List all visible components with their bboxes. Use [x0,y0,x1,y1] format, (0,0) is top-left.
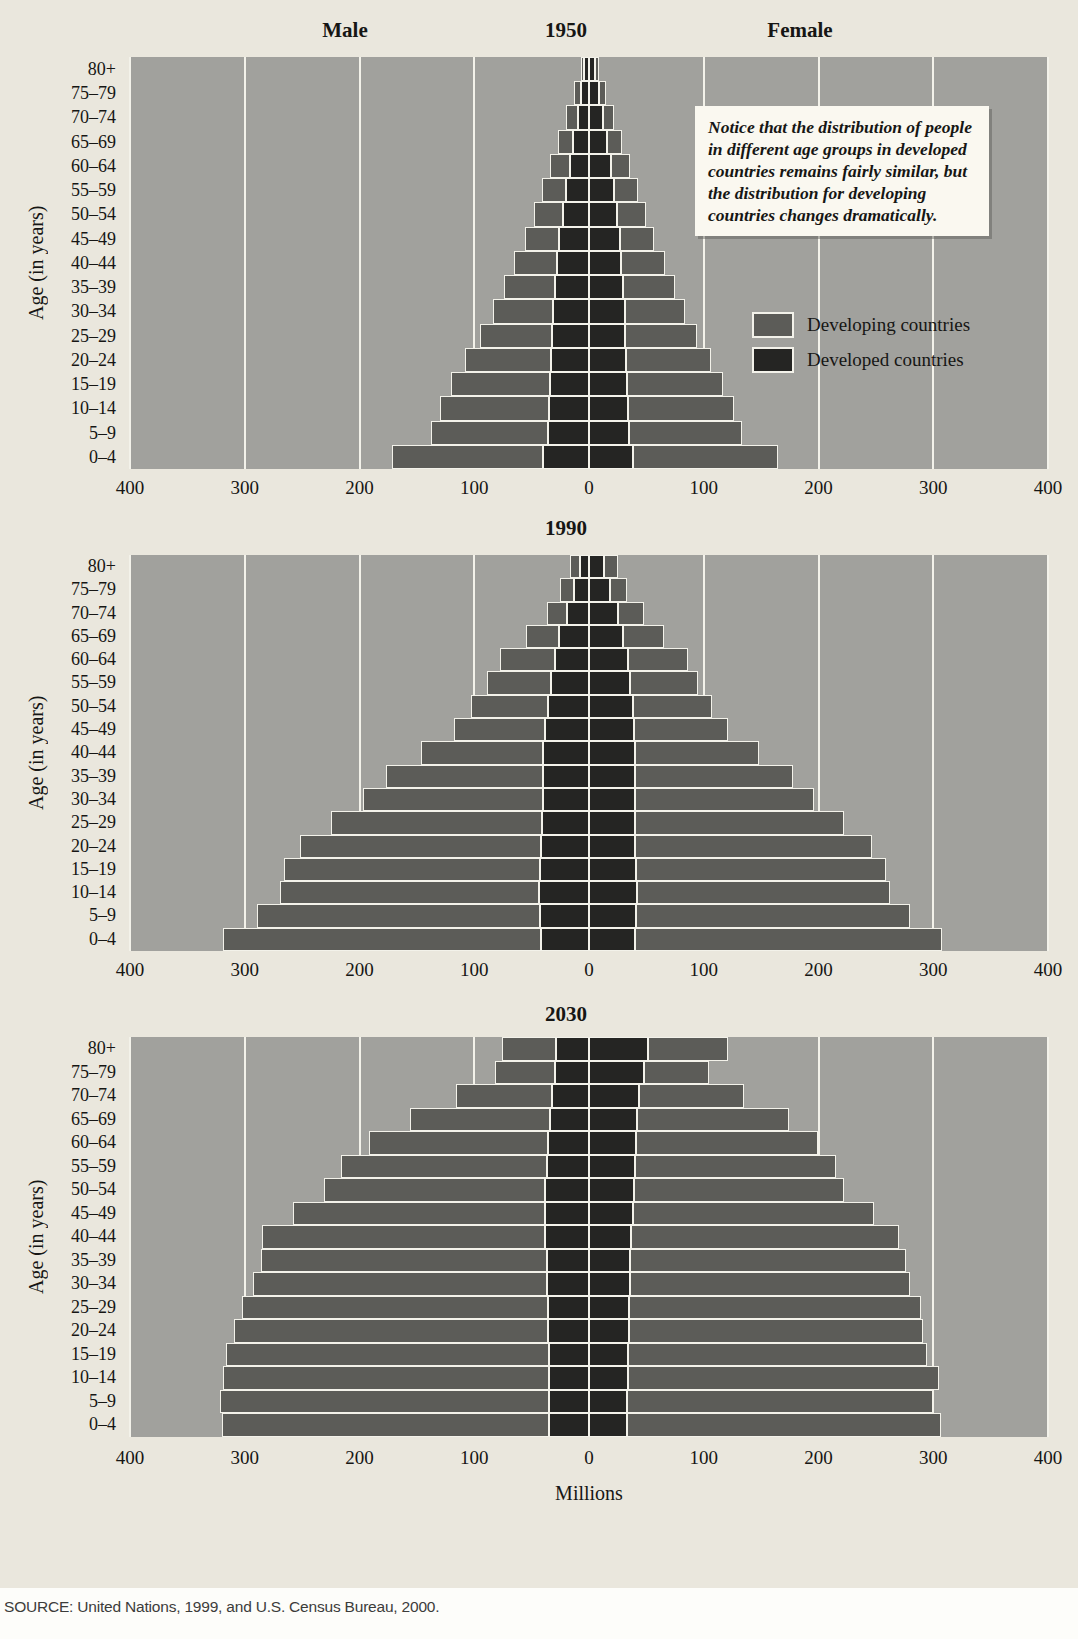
x-tick-label: 300 [919,959,948,981]
bar-female-developed [589,227,620,251]
female-half [589,602,1048,625]
bar-female-developing [628,396,734,420]
bar-female-developed [589,299,625,323]
bar-female-developing [644,1061,709,1085]
annotation-box: Notice that the distribution of people i… [695,106,989,236]
age-label: 0–4 [0,445,122,469]
bar-male-developed [539,881,589,904]
age-label: 60–64 [0,154,122,178]
bar-female-developing [603,105,614,129]
x-tick-label: 400 [1034,1447,1063,1469]
male-half [130,835,589,858]
bar-male-developed [540,904,589,927]
bar-female-developing [634,1178,844,1202]
female-half [589,788,1048,811]
bar-male-developing [456,1084,552,1108]
bar-female-developed [589,835,635,858]
bar-female-developing [607,130,622,154]
male-half [130,1061,589,1085]
age-label: 70–74 [0,602,122,625]
bar-male-developing [493,299,554,323]
age-label: 30–34 [0,299,122,323]
age-label: 45–49 [0,718,122,741]
age-label: 75–79 [0,1061,122,1085]
bar-male-developing [440,396,549,420]
bar-male-developed [545,1202,589,1226]
bar-male-developing [514,251,556,275]
age-label: 15–19 [0,372,122,396]
bar-female-developing [625,299,686,323]
age-label: 60–64 [0,1131,122,1155]
x-axis-ticks: 4003002001000100200300400 [130,477,1048,503]
bar-male-developing [471,695,548,718]
female-half [589,57,1048,81]
pyramid-panel-1990: 1990 Age (in years) 80+75–7970–7465–6960… [0,510,1078,996]
bar-female-developing [628,1366,939,1390]
bar-male-developing [284,858,540,881]
pyramid-plot-2030 [130,1037,1048,1437]
age-label: 50–54 [0,202,122,226]
bar-male-developing [223,1366,549,1390]
x-tick-label: 400 [116,1447,145,1469]
source-note: SOURCE: United Nations, 1999, and U.S. C… [4,1598,439,1616]
bar-male-developed [556,1037,589,1061]
female-half [589,625,1048,648]
bar-male-developed [559,227,589,251]
bar-male-developing [421,741,543,764]
pyramid-plot-1990 [130,555,1048,951]
panel-header-2030: 2030 [130,1002,1048,1030]
legend-item-developed: Developed countries [752,347,970,373]
bar-female-developed [589,671,630,694]
age-label: 55–59 [0,178,122,202]
bar-female-developed [589,130,607,154]
bar-female-developed [589,154,611,178]
bar-female-developed [589,1225,631,1249]
bar-female-developing [620,227,654,251]
bar-female-developed [589,275,623,299]
male-half [130,811,589,834]
bar-female-developed [589,625,623,648]
male-half [130,788,589,811]
male-half [130,57,589,81]
male-half [130,1319,589,1343]
bar-male-developed [547,1249,589,1273]
x-tick-label: 400 [116,959,145,981]
bar-male-developed [573,130,589,154]
bar-male-developing [574,81,581,105]
bar-male-developing [542,178,566,202]
year-title-1990: 1990 [545,516,587,541]
bar-female-developed [589,1249,630,1273]
bar-female-developing [637,881,889,904]
x-tick-label: 200 [804,477,833,499]
male-half [130,178,589,202]
bar-male-developing [504,275,554,299]
bar-female-developing [636,1131,818,1155]
legend-label-developing: Developing countries [807,314,970,336]
female-half [589,1108,1048,1132]
bar-male-developed [542,811,589,834]
bar-female-developing [623,275,675,299]
bar-male-developing [262,1225,545,1249]
age-label: 80+ [0,555,122,578]
bar-male-developing [386,765,543,788]
bar-female-developing [628,1343,927,1367]
female-half [589,858,1048,881]
bar-male-developed [553,299,589,323]
age-label: 40–44 [0,251,122,275]
bar-male-developed [540,858,589,881]
x-tick-label: 200 [804,1447,833,1469]
bar-male-developing [500,648,555,671]
bar-female-developing [623,625,663,648]
bar-male-developing [293,1202,545,1226]
bar-male-developing [566,105,577,129]
age-label: 65–69 [0,1108,122,1132]
bar-female-developing [626,348,711,372]
male-half [130,904,589,927]
bar-male-developing [526,625,559,648]
female-half [589,695,1048,718]
bar-female-developing [604,555,618,578]
bar-female-developed [589,1413,627,1437]
bar-male-developing [547,602,568,625]
x-tick-label: 200 [345,477,374,499]
bar-female-developed [589,858,636,881]
